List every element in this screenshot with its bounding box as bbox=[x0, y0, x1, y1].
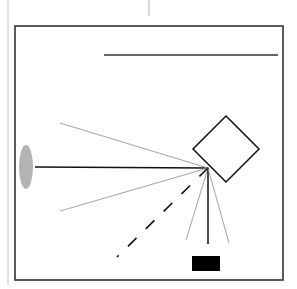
light-source-ellipse bbox=[19, 145, 33, 189]
left-cone-ray-line bbox=[186, 168, 208, 240]
diagram-layer bbox=[8, 0, 283, 285]
incident-beam-line bbox=[35, 167, 208, 168]
upper-scatter-ray-line bbox=[60, 123, 208, 168]
ray-diagram-canvas bbox=[0, 0, 297, 289]
detector-block bbox=[192, 256, 220, 271]
focal-point-dot bbox=[207, 167, 209, 169]
